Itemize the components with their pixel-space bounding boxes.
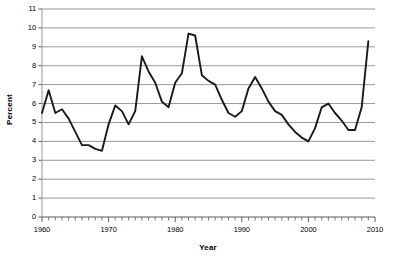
y-axis-tick-label: 1 — [20, 194, 36, 202]
unemployment-line-chart: Percent Year 01234567891011 196019701980… — [0, 0, 398, 260]
x-axis-tick-label: 2010 — [358, 226, 392, 234]
y-axis-tick-label: 2 — [20, 175, 36, 183]
x-axis-ticks — [39, 9, 376, 222]
x-axis-tick-label: 1960 — [25, 226, 59, 234]
y-axis-tick-label: 8 — [20, 62, 36, 70]
x-axis-tick-label: 1970 — [92, 226, 126, 234]
y-axis-tick-label: 4 — [20, 137, 36, 145]
x-axis-tick-label: 1980 — [158, 226, 192, 234]
x-axis-tick-label: 2000 — [291, 226, 325, 234]
y-axis-tick-label: 7 — [20, 81, 36, 89]
gridlines — [42, 9, 375, 198]
y-axis-tick-label: 9 — [20, 43, 36, 51]
y-axis-tick-label: 6 — [20, 100, 36, 108]
y-axis-tick-label: 5 — [20, 118, 36, 126]
data-series-line — [42, 34, 368, 151]
y-axis-tick-label: 3 — [20, 156, 36, 164]
x-axis-tick-label: 1990 — [225, 226, 259, 234]
y-axis-tick-label: 11 — [20, 5, 36, 13]
y-axis-tick-label: 10 — [20, 24, 36, 32]
y-axis-tick-label: 0 — [20, 213, 36, 221]
plot-area — [0, 0, 398, 260]
